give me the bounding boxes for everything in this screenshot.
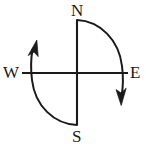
label-west: W — [3, 64, 19, 81]
compass-diagram: N S W E — [0, 0, 146, 148]
compass-svg — [0, 0, 146, 148]
northeast-arc — [77, 20, 123, 97]
label-east: E — [130, 64, 140, 81]
southwest-arc — [31, 50, 77, 126]
label-north: N — [71, 2, 83, 19]
label-south: S — [72, 128, 81, 145]
northeast-arrowhead-icon — [116, 88, 126, 105]
southwest-arrowhead-icon — [28, 40, 38, 57]
